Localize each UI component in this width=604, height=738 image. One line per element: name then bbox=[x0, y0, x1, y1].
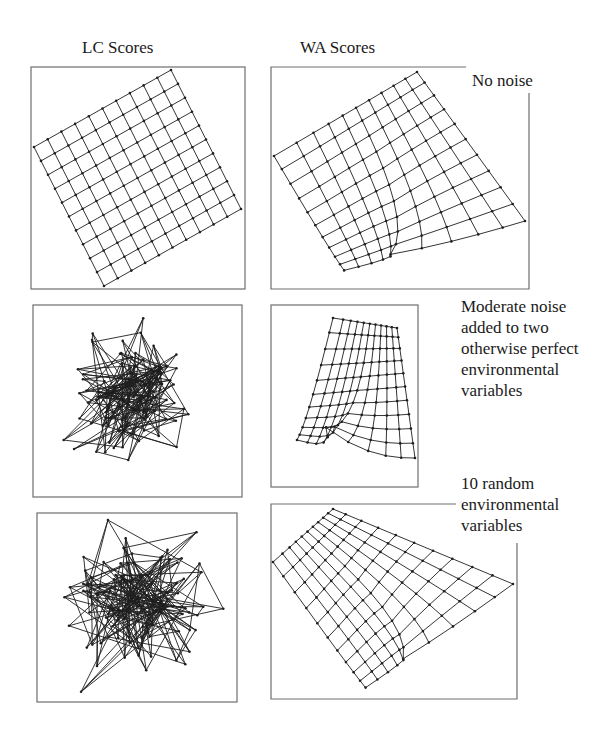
site-point bbox=[367, 450, 370, 453]
site-point bbox=[313, 426, 316, 429]
site-point bbox=[95, 164, 98, 167]
site-point bbox=[212, 188, 215, 191]
site-point bbox=[403, 606, 406, 609]
site-point bbox=[491, 574, 494, 577]
site-point bbox=[394, 118, 397, 121]
site-point bbox=[360, 520, 363, 523]
site-point bbox=[102, 178, 105, 181]
site-point bbox=[362, 599, 365, 602]
site-point bbox=[459, 162, 462, 165]
site-point bbox=[137, 654, 140, 657]
site-point bbox=[354, 526, 357, 529]
site-point bbox=[359, 680, 362, 683]
site-point bbox=[226, 180, 229, 183]
site-point bbox=[135, 374, 138, 377]
site-point bbox=[110, 391, 113, 394]
site-point bbox=[413, 618, 416, 621]
site-point bbox=[398, 649, 401, 652]
site-point bbox=[123, 184, 126, 187]
site-point bbox=[142, 417, 145, 420]
site-point bbox=[327, 611, 330, 614]
site-point bbox=[128, 641, 131, 644]
site-point bbox=[102, 214, 105, 217]
site-point bbox=[364, 569, 367, 572]
site-point bbox=[104, 397, 107, 400]
site-point bbox=[336, 545, 339, 548]
site-point bbox=[107, 636, 110, 639]
site-point bbox=[145, 416, 148, 419]
site-point bbox=[100, 642, 103, 645]
site-point bbox=[88, 221, 91, 224]
site-point bbox=[400, 456, 403, 459]
site-point bbox=[131, 372, 134, 375]
site-point bbox=[322, 426, 325, 429]
site-point bbox=[411, 89, 414, 92]
site-point bbox=[415, 592, 418, 595]
site-point bbox=[308, 406, 311, 409]
site-point bbox=[159, 556, 162, 559]
site-point bbox=[389, 253, 392, 256]
site-point bbox=[122, 610, 125, 613]
site-point bbox=[108, 121, 111, 124]
site-point bbox=[434, 155, 437, 158]
site-point bbox=[423, 81, 426, 84]
site-point bbox=[163, 126, 166, 129]
site-point bbox=[345, 661, 348, 664]
site-point bbox=[183, 408, 186, 411]
site-point bbox=[356, 389, 359, 392]
site-point bbox=[86, 646, 89, 649]
site-point bbox=[418, 164, 421, 167]
site-point bbox=[343, 269, 346, 272]
site-point bbox=[134, 408, 137, 411]
site-point bbox=[88, 150, 91, 153]
site-point bbox=[311, 573, 314, 576]
site-point bbox=[422, 630, 425, 633]
site-point bbox=[149, 613, 152, 616]
site-point bbox=[91, 643, 94, 646]
site-point bbox=[40, 160, 43, 163]
site-point bbox=[337, 572, 340, 575]
site-point bbox=[130, 234, 133, 237]
site-point bbox=[318, 185, 321, 188]
site-point bbox=[273, 155, 276, 158]
site-point bbox=[192, 217, 195, 220]
site-point bbox=[323, 392, 326, 395]
site-point bbox=[487, 170, 490, 173]
site-point bbox=[425, 140, 428, 143]
site-point bbox=[337, 424, 340, 427]
site-point bbox=[145, 395, 148, 398]
site-point bbox=[166, 549, 169, 552]
site-point bbox=[121, 446, 124, 449]
site-point bbox=[148, 635, 151, 638]
site-point bbox=[427, 580, 430, 583]
site-point bbox=[130, 269, 133, 272]
site-point bbox=[328, 331, 331, 334]
site-point bbox=[385, 347, 388, 350]
site-point bbox=[158, 365, 161, 368]
site-point bbox=[117, 637, 120, 640]
site-point bbox=[281, 552, 284, 555]
site-point bbox=[377, 527, 380, 530]
site-point bbox=[327, 512, 330, 515]
site-point bbox=[329, 404, 332, 407]
site-point bbox=[420, 102, 423, 105]
site-point bbox=[410, 148, 413, 151]
site-point bbox=[372, 347, 375, 350]
site-point bbox=[333, 214, 336, 217]
site-point bbox=[282, 575, 285, 578]
site-point bbox=[376, 388, 379, 391]
site-point bbox=[121, 340, 124, 343]
site-point bbox=[404, 551, 407, 554]
site-point bbox=[450, 240, 453, 243]
site-point bbox=[334, 524, 337, 527]
site-point bbox=[82, 582, 85, 585]
site-point bbox=[85, 390, 88, 393]
site-point bbox=[341, 414, 344, 417]
site-point bbox=[166, 598, 169, 601]
site-point bbox=[357, 265, 360, 268]
site-point bbox=[356, 650, 359, 653]
site-point bbox=[151, 369, 154, 372]
site-point bbox=[459, 600, 462, 603]
site-point bbox=[309, 435, 312, 438]
site-point bbox=[387, 542, 390, 545]
